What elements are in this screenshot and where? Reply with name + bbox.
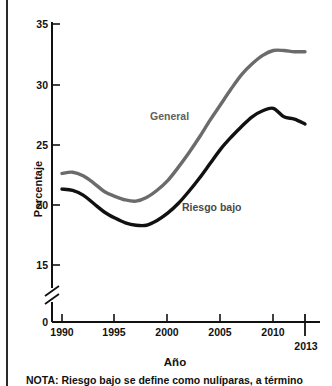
x-tick-label-2010: 2010 — [250, 327, 296, 337]
y-tick-label-15: 15 — [22, 260, 48, 270]
x-tick-label-2000: 2000 — [144, 327, 190, 337]
x-axis-title: Año — [120, 356, 230, 368]
x-tick-label-1995: 1995 — [91, 327, 137, 337]
series-label-general: General — [150, 110, 189, 122]
series-label-riesgo-bajo: Riesgo bajo — [182, 201, 242, 213]
series-line-general — [62, 50, 305, 201]
y-axis-break-marks — [45, 286, 59, 304]
chart-note: NOTA: Riesgo bajo se define como nulípar… — [26, 374, 326, 386]
x-tick-label-2005: 2005 — [197, 327, 243, 337]
y-tick-label-0: 0 — [22, 317, 48, 327]
y-axis-title: Porcentaje — [32, 129, 44, 249]
y-tick-label-30: 30 — [22, 80, 48, 90]
chart-screenshot: 35 30 25 20 15 0 1990 1995 2000 2005 201… — [0, 0, 332, 386]
x-tick-label-2013: 2013 — [283, 341, 329, 351]
y-tick-label-35: 35 — [22, 19, 48, 29]
line-chart: 35 30 25 20 15 0 1990 1995 2000 2005 201… — [0, 0, 332, 386]
x-tick-label-1990: 1990 — [39, 327, 85, 337]
